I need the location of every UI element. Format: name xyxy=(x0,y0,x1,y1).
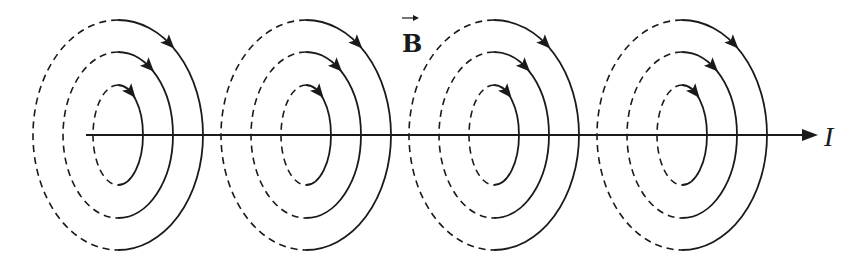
current-label-i: I xyxy=(823,121,835,152)
current-arrow-icon xyxy=(802,129,818,141)
direction-arrow-icon xyxy=(310,83,323,98)
magnetic-field-diagram: B I xyxy=(0,0,860,266)
direction-arrow-icon xyxy=(686,83,699,98)
direction-arrow-icon xyxy=(498,83,511,98)
field-label-b: B xyxy=(402,29,422,58)
direction-arrow-icon xyxy=(122,83,135,98)
vector-arrow-icon xyxy=(402,15,419,21)
current-wire xyxy=(86,129,818,141)
labels: B I xyxy=(402,15,835,152)
